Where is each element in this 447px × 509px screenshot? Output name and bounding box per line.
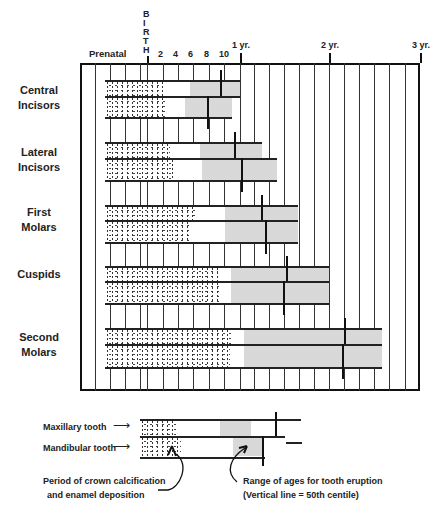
legend-line [140, 419, 301, 421]
calcification-period-mandibular [105, 282, 221, 303]
calcification-period-maxillary [105, 267, 218, 281]
tooth-label-line: Incisors [8, 98, 70, 113]
grid-column-line [405, 63, 406, 391]
tooth-label-line: Molars [8, 345, 70, 360]
bar-line-top [105, 142, 262, 144]
eruption-range-mandibular [231, 282, 329, 303]
tooth-label-lateral-incisors: LateralIncisors [8, 145, 70, 175]
median-line-maxillary [286, 256, 288, 281]
birth-tick-mark [147, 56, 149, 63]
median-line-mandibular [283, 281, 285, 315]
grid-column-line [95, 63, 96, 391]
month-tick-label: 4 [173, 49, 178, 59]
eruption-range-maxillary [190, 81, 240, 96]
month-tick-label: 8 [204, 49, 209, 59]
tooth-label-line: Central [8, 83, 70, 98]
bar-line-bottom [105, 117, 232, 119]
year-tick-mark [240, 53, 242, 63]
legend-eruption-text: Range of ages for tooth eruption [243, 474, 383, 488]
year-tick-mark [420, 53, 422, 63]
median-line-maxillary [234, 132, 236, 158]
tooth-label-line: Lateral [8, 145, 70, 160]
legend-calcification-text-2: and enamel deposition [47, 488, 145, 502]
legend-mandibular-label: Mandibular tooth [43, 441, 116, 455]
tooth-label-line: Second [8, 330, 70, 345]
eruption-range-mandibular [244, 345, 382, 367]
bar-line-bottom [105, 180, 277, 182]
calcification-period-mandibular [105, 159, 173, 180]
eruption-range-maxillary [231, 267, 329, 281]
legend-eruption-text-2: (Vertical line = 50th centile) [243, 488, 359, 502]
birth-letter: H [143, 46, 150, 55]
year-tick-label: 1 yr. [232, 40, 250, 50]
tooth-label-cuspids: Cuspids [8, 267, 70, 282]
legend-calcification-text: Period of crown calcification [43, 474, 166, 488]
bar-line-top [105, 328, 382, 330]
bar-line-mid [105, 281, 329, 283]
median-line-maxillary [344, 318, 346, 344]
median-line-mandibular [265, 220, 267, 254]
tooth-label-second-molars: SecondMolars [8, 330, 70, 360]
calcification-period-maxillary [105, 206, 197, 220]
year-tick-label: 3 yr. [412, 40, 430, 50]
tooth-label-first-molars: FirstMolars [8, 205, 70, 235]
grid-column-line [389, 63, 390, 391]
arrow-right-icon: ⟶ [113, 418, 130, 432]
eruption-range-maxillary [244, 329, 382, 344]
year-tick-mark [329, 53, 331, 63]
legend-calcification-swatch-max [140, 420, 176, 436]
median-line-mandibular [207, 96, 209, 129]
bar-line-bottom [105, 303, 329, 305]
bar-line-bottom [105, 367, 382, 369]
eruption-range-mandibular [185, 97, 232, 117]
tooth-label-line: Cuspids [8, 267, 70, 282]
calcification-period-maxillary [105, 81, 163, 96]
calcification-period-maxillary [105, 143, 170, 158]
eruption-range-mandibular [225, 221, 298, 242]
legend-eruption-swatch-max [220, 420, 251, 436]
bar-line-mid [105, 96, 240, 98]
calcification-period-maxillary [105, 329, 231, 344]
median-line-mandibular [342, 344, 344, 379]
bar-line-mid [105, 344, 382, 346]
legend-maxillary-label: Maxillary tooth [43, 420, 107, 434]
tooth-label-line: First [8, 205, 70, 220]
month-tick-label: 6 [188, 49, 193, 59]
median-line-maxillary [220, 70, 222, 96]
eruption-range-mandibular [202, 159, 277, 180]
prenatal-label: Prenatal [89, 48, 127, 59]
median-line-mandibular [241, 158, 243, 192]
arrow-right-icon: ⟶ [113, 439, 130, 453]
bar-line-mid [105, 158, 277, 160]
legend-median-line [275, 412, 277, 436]
tooth-label-line: Incisors [8, 160, 70, 175]
calcification-period-mandibular [105, 345, 230, 367]
legend-line [286, 442, 302, 444]
bar-line-mid [105, 220, 298, 222]
median-line-maxillary [261, 195, 263, 220]
calcification-period-mandibular [105, 221, 190, 242]
calcification-period-mandibular [105, 97, 167, 117]
bar-line-bottom [105, 242, 298, 244]
bar-line-top [105, 205, 298, 207]
month-tick-label: 2 [158, 49, 163, 59]
tooth-label-line: Molars [8, 220, 70, 235]
year-tick-label: 2 yr. [321, 40, 339, 50]
bar-line-top [105, 266, 329, 268]
month-tick-label: 10 [219, 49, 229, 59]
eruption-range-maxillary [200, 143, 262, 158]
tooth-label-central-incisors: CentralIncisors [8, 83, 70, 113]
